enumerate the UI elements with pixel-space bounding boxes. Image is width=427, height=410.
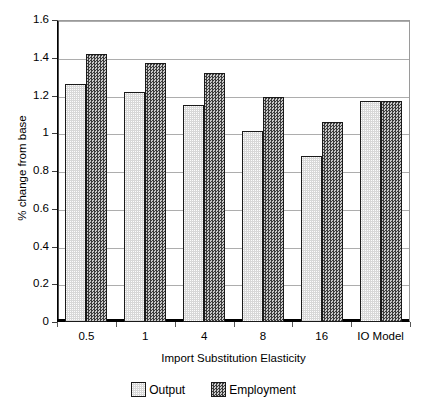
bar-output-8 xyxy=(242,131,263,322)
x-axis-tick-mark xyxy=(292,322,293,327)
y-axis-tick-label: 0.8 xyxy=(0,165,55,177)
employment-swatch xyxy=(211,382,226,397)
x-axis-tick-mark xyxy=(175,322,176,327)
x-axis-tick-label: 8 xyxy=(260,330,266,342)
bar-group xyxy=(360,20,402,322)
y-axis-tick-label: 0.2 xyxy=(0,279,55,291)
bar-group xyxy=(242,20,284,322)
chart-legend: OutputEmployment xyxy=(0,382,427,397)
y-axis-tick-label: 1.2 xyxy=(0,90,55,102)
y-axis-tick-label: 0.6 xyxy=(0,203,55,215)
x-axis-title: Import Substitution Elasticity xyxy=(57,352,410,364)
x-axis-tick-mark xyxy=(410,322,411,327)
y-axis-tick-label: 0.4 xyxy=(0,241,55,253)
bar-group xyxy=(65,20,107,322)
x-axis-tick-mark xyxy=(116,322,117,327)
bar-output-16 xyxy=(301,156,322,322)
bar-employment-16 xyxy=(322,122,343,322)
legend-label: Output xyxy=(149,383,185,397)
x-axis-tick-labels: 0.514816IO Model xyxy=(57,330,410,348)
x-axis-tick-label: 16 xyxy=(315,330,328,342)
output-swatch xyxy=(131,382,146,397)
bar-output-0.5 xyxy=(65,84,86,322)
bar-groups xyxy=(57,20,410,322)
x-axis-tick-mark xyxy=(234,322,235,327)
bar-output-io-model xyxy=(360,101,381,322)
bar-group xyxy=(301,20,343,322)
bar-group xyxy=(124,20,166,322)
bar-employment-0.5 xyxy=(86,54,107,322)
bar-employment-4 xyxy=(204,73,225,322)
x-axis-tick-label: 0.5 xyxy=(78,330,94,342)
legend-item-employment[interactable]: Employment xyxy=(211,382,296,397)
bar-output-4 xyxy=(183,105,204,322)
bar-chart: % change from base 1.61.41.210.80.60.40.… xyxy=(0,0,427,410)
x-axis-tick-mark xyxy=(351,322,352,327)
bar-group xyxy=(183,20,225,322)
x-axis-tick-mark xyxy=(57,322,58,327)
y-axis-tick-label: 1.4 xyxy=(0,52,55,64)
y-axis-tick-label: 0 xyxy=(0,316,55,328)
x-axis-tick-label: 1 xyxy=(142,330,148,342)
bar-employment-io-model xyxy=(381,101,402,322)
x-axis-ticks xyxy=(57,322,410,328)
bar-output-1 xyxy=(124,92,145,322)
bar-employment-8 xyxy=(263,97,284,322)
legend-item-output[interactable]: Output xyxy=(131,382,185,397)
y-axis-tick-label: 1.6 xyxy=(0,14,55,26)
x-axis-tick-label: IO Model xyxy=(357,330,404,342)
legend-label: Employment xyxy=(229,383,296,397)
x-axis-tick-label: 4 xyxy=(201,330,207,342)
bar-employment-1 xyxy=(145,63,166,322)
y-axis-tick-label: 1 xyxy=(0,128,55,140)
